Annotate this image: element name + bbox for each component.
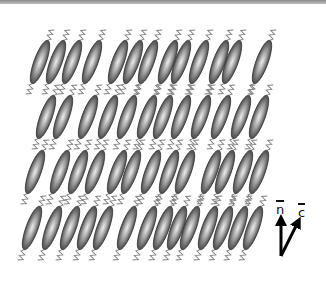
alkyl-tail	[113, 138, 122, 151]
alkyl-tail	[224, 249, 233, 262]
molecule-layers	[14, 27, 279, 263]
alkyl-tail	[249, 138, 258, 151]
alkyl-tail	[109, 194, 118, 207]
alkyl-tail	[187, 138, 196, 151]
alkyl-tail	[207, 138, 216, 151]
mesogen-core	[248, 38, 275, 85]
alkyl-tail	[187, 28, 196, 41]
mesogen-core	[21, 148, 48, 195]
alkyl-tail	[149, 138, 158, 151]
alkyl-tail	[231, 138, 240, 151]
alkyl-tail	[117, 193, 126, 206]
mesogen-core	[78, 38, 105, 85]
alkyl-tail	[93, 194, 102, 207]
alkyl-tail	[259, 194, 268, 207]
smectic-layers-diagram	[0, 0, 326, 282]
alkyl-tail	[94, 138, 103, 151]
alkyl-tail	[227, 83, 236, 96]
c-director-arrow	[281, 222, 298, 256]
alkyl-tail	[74, 138, 83, 151]
alkyl-tail	[169, 194, 178, 207]
alkyl-tail	[26, 83, 35, 96]
alkyl-tail	[78, 83, 87, 96]
mesogen-core	[18, 204, 45, 251]
alkyl-tail	[18, 249, 27, 262]
alkyl-tail	[268, 28, 277, 41]
alkyl-tail	[137, 138, 146, 151]
alkyl-tail	[227, 138, 236, 151]
alkyl-tail	[133, 249, 142, 262]
alkyl-tail	[98, 28, 107, 41]
alkyl-tail	[154, 28, 163, 41]
alkyl-tail	[38, 249, 47, 262]
alkyl-tail	[62, 28, 71, 41]
alkyl-tail	[49, 138, 58, 151]
molecule	[244, 27, 279, 97]
mesogen-core	[187, 93, 214, 140]
alkyl-tail	[191, 138, 200, 151]
molecule	[74, 27, 109, 97]
alkyl-tail	[69, 83, 78, 96]
alkyl-tail	[101, 138, 110, 151]
alkyl-tail	[89, 249, 98, 262]
alkyl-tail	[174, 28, 183, 41]
alkyl-tail	[38, 194, 47, 207]
alkyl-tail	[41, 138, 50, 151]
alkyl-tail	[103, 193, 112, 206]
alkyl-tail	[149, 249, 158, 262]
alkyl-tail	[124, 28, 133, 41]
alkyl-tail	[123, 138, 132, 151]
alkyl-tail	[183, 194, 192, 207]
alkyl-tail	[239, 249, 248, 262]
molecule	[17, 137, 52, 207]
alkyl-tail	[56, 249, 65, 262]
alkyl-tail	[66, 138, 75, 151]
n-director-label: n	[276, 200, 284, 216]
molecule	[14, 193, 49, 263]
alkyl-tail	[209, 249, 218, 262]
alkyl-tail	[153, 194, 162, 207]
alkyl-tail	[196, 194, 205, 207]
alkyl-tail	[167, 138, 176, 151]
alkyl-tail	[46, 193, 55, 206]
alkyl-tail	[84, 138, 93, 151]
alkyl-tail	[218, 83, 227, 96]
alkyl-tail	[175, 138, 184, 151]
alkyl-tail	[46, 28, 55, 41]
alkyl-tail	[104, 83, 113, 96]
alkyl-tail	[265, 138, 274, 151]
alkyl-tail	[58, 194, 67, 207]
alkyl-tail	[217, 138, 226, 151]
mesogen-core	[207, 93, 234, 140]
alkyl-tail	[133, 138, 142, 151]
alkyl-tail	[245, 138, 254, 151]
alkyl-tail	[205, 28, 214, 41]
c-director-label: c	[298, 203, 305, 219]
director-arrows	[281, 220, 298, 256]
alkyl-tail	[163, 249, 172, 262]
alkyl-tail	[133, 194, 142, 207]
alkyl-tail	[225, 28, 234, 41]
alkyl-tail	[229, 194, 238, 207]
alkyl-tail	[76, 194, 85, 207]
alkyl-tail	[139, 28, 148, 41]
alkyl-tail	[78, 28, 87, 41]
alkyl-tail	[113, 249, 122, 262]
alkyl-tail	[176, 249, 185, 262]
alkyl-tail	[157, 138, 166, 151]
alkyl-tail	[94, 83, 103, 96]
alkyl-tail	[194, 249, 203, 262]
mesogen-core	[113, 204, 140, 251]
alkyl-tail	[32, 138, 41, 151]
mesogen-core	[74, 93, 101, 140]
alkyl-tail	[42, 83, 51, 96]
alkyl-tail	[244, 194, 253, 207]
alkyl-tail	[21, 193, 30, 206]
alkyl-tail	[73, 249, 82, 262]
alkyl-tail	[265, 83, 274, 96]
alkyl-tail	[64, 193, 73, 206]
alkyl-tail	[238, 28, 247, 41]
